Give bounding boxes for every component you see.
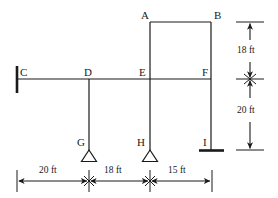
pin-support-H-icon [143, 150, 158, 162]
dim-label-15ft-horizontal: 15 ft [168, 166, 186, 176]
joint-label-F: F [202, 67, 208, 78]
pin-support-G-icon [82, 150, 97, 162]
joint-label-G: G [77, 137, 85, 148]
structural-frame-diagram: A B C D E F G H I 18 ft 20 ft 20 ft 18 f… [0, 0, 278, 198]
vertical-dimension-lines [236, 22, 264, 150]
dim-label-18ft-horizontal: 18 ft [104, 166, 122, 176]
joint-label-B: B [214, 10, 221, 21]
supports [17, 66, 224, 162]
dim-label-20ft-vertical: 20 ft [237, 106, 255, 116]
dim-label-18ft-vertical: 18 ft [237, 46, 255, 56]
joint-label-H: H [137, 137, 145, 148]
joint-label-C: C [20, 67, 27, 78]
joint-label-D: D [84, 67, 92, 78]
joint-label-A: A [141, 10, 149, 21]
dim-label-20ft-horizontal: 20 ft [39, 166, 57, 176]
frame-members [17, 22, 211, 151]
joint-label-I: I [203, 137, 207, 148]
joint-label-E: E [139, 67, 146, 78]
